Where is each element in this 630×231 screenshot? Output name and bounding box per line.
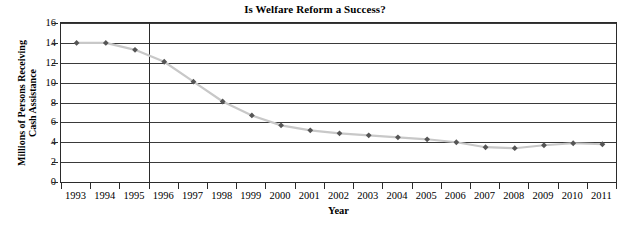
y-axis-tick-mark <box>52 122 58 123</box>
data-point-marker <box>453 139 459 145</box>
x-axis-tick-mark <box>616 183 617 189</box>
y-axis-tick-mark <box>52 43 58 44</box>
x-axis-title: Year <box>60 205 617 216</box>
x-axis-tick-labels: 1993199419951996199719981999200020012002… <box>60 190 617 204</box>
x-axis-tick-mark <box>587 183 588 189</box>
x-axis-tick-label: 2011 <box>581 190 621 201</box>
x-axis-tick-mark <box>236 183 237 189</box>
y-axis-tick-mark <box>52 83 58 84</box>
x-axis-tick-mark <box>61 183 62 189</box>
x-axis-tick-mark <box>558 183 559 189</box>
y-axis-tick-mark <box>52 142 58 143</box>
data-point-marker <box>599 141 605 147</box>
data-point-marker <box>103 40 109 46</box>
data-point-marker <box>132 47 138 53</box>
y-axis-tick-mark <box>52 103 58 104</box>
chart-container: Is Welfare Reform a Success? Millions of… <box>0 0 630 231</box>
x-axis-tick-mark <box>324 183 325 189</box>
data-point-marker <box>570 140 576 146</box>
data-point-marker <box>366 132 372 138</box>
y-axis-tick-mark <box>52 63 58 64</box>
x-axis-tick-mark <box>119 183 120 189</box>
data-point-marker <box>483 144 489 150</box>
x-axis-tick-mark <box>528 183 529 189</box>
x-axis-tick-marks <box>60 183 617 190</box>
x-axis-tick-mark <box>149 183 150 189</box>
data-point-marker <box>541 142 547 148</box>
data-series <box>62 24 617 183</box>
x-axis-tick-mark <box>441 183 442 189</box>
y-axis-tick-marks <box>0 22 60 183</box>
data-point-marker <box>337 130 343 136</box>
data-point-marker <box>307 127 313 133</box>
y-axis-tick-mark <box>52 23 58 24</box>
plot-area <box>60 22 617 183</box>
x-axis-tick-mark <box>295 183 296 189</box>
data-point-marker <box>395 134 401 140</box>
x-axis-tick-mark <box>207 183 208 189</box>
x-axis-tick-mark <box>178 183 179 189</box>
x-axis-tick-mark <box>265 183 266 189</box>
chart-title: Is Welfare Reform a Success? <box>0 3 630 15</box>
x-axis-tick-mark <box>90 183 91 189</box>
x-axis-tick-mark <box>412 183 413 189</box>
data-point-marker <box>512 145 518 151</box>
x-axis-tick-mark <box>382 183 383 189</box>
data-point-marker <box>424 136 430 142</box>
data-point-marker <box>74 40 80 46</box>
y-axis-tick-mark <box>52 162 58 163</box>
x-axis-tick-mark <box>470 183 471 189</box>
x-axis-tick-mark <box>353 183 354 189</box>
data-point-marker <box>278 122 284 128</box>
y-axis-tick-mark <box>52 182 58 183</box>
x-axis-tick-mark <box>499 183 500 189</box>
